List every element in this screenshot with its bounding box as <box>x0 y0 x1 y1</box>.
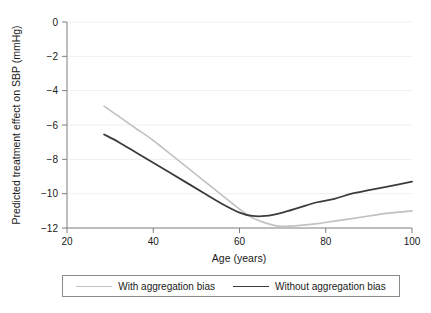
series-line-without-aggregation-bias <box>104 134 412 216</box>
y-tick-label: −10 <box>41 188 58 199</box>
y-tick-label: −6 <box>47 120 59 131</box>
y-tick-label: −4 <box>47 85 59 96</box>
x-tick-label: 60 <box>234 236 246 247</box>
y-tick-label: 0 <box>52 17 58 28</box>
x-axis-title: Age (years) <box>212 252 266 264</box>
line-chart-plot: 0−2−4−6−8−10−12 20406080100 Predicted tr… <box>0 0 431 313</box>
legend-item-without-aggregation-bias: Without aggregation bias <box>233 281 386 292</box>
legend-label-without-aggregation-bias: Without aggregation bias <box>275 281 386 292</box>
legend-label-with-aggregation-bias: With aggregation bias <box>118 281 215 292</box>
y-tick-label: −2 <box>47 51 59 62</box>
y-axis-ticks: 0−2−4−6−8−10−12 <box>41 17 67 234</box>
legend-line-swatch-light <box>76 286 112 287</box>
legend-item-with-aggregation-bias: With aggregation bias <box>76 281 215 292</box>
x-tick-label: 20 <box>61 236 73 247</box>
y-tick-label: −8 <box>47 154 59 165</box>
y-axis-title: Predicted treatment effect on SBP (mmHg) <box>10 25 22 224</box>
x-tick-label: 100 <box>404 236 421 247</box>
chart-figure: 0−2−4−6−8−10−12 20406080100 Predicted tr… <box>0 0 431 313</box>
series-line-with-aggregation-bias <box>104 106 412 226</box>
legend-line-swatch-dark <box>233 286 269 287</box>
x-axis-ticks: 20406080100 <box>61 228 420 247</box>
y-tick-label: −12 <box>41 223 58 234</box>
x-tick-label: 40 <box>148 236 160 247</box>
grid-lines <box>68 22 412 194</box>
x-tick-label: 80 <box>320 236 332 247</box>
chart-legend: With aggregation bias Without aggregatio… <box>62 275 400 297</box>
